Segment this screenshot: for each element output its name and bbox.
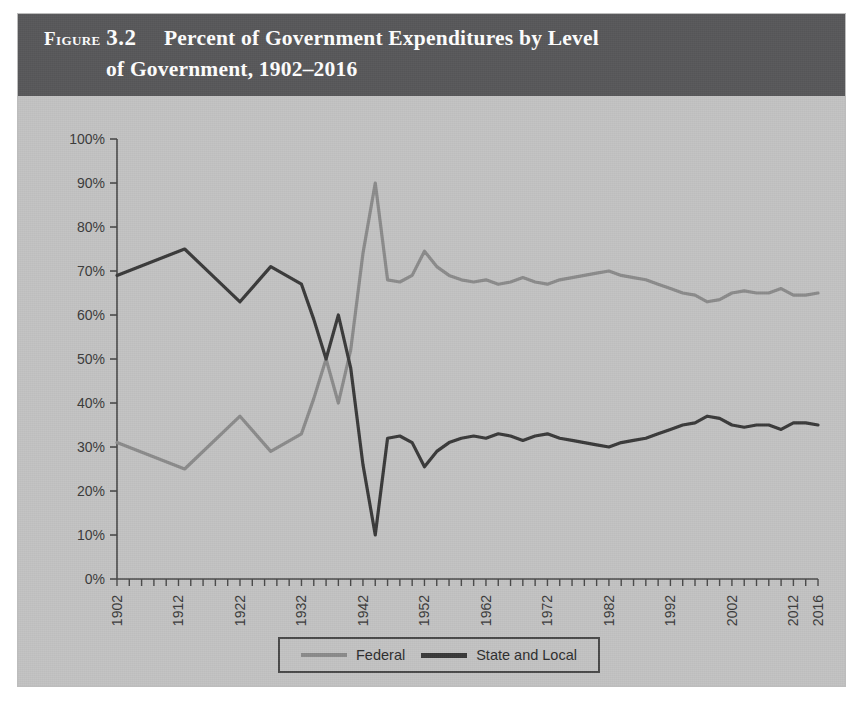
y-tick-label: 0%	[85, 571, 105, 587]
y-tick-label: 50%	[77, 351, 105, 367]
y-tick-label: 40%	[77, 395, 105, 411]
y-tick-label: 60%	[77, 307, 105, 323]
y-tick-label: 70%	[77, 263, 105, 279]
legend-swatch-federal-icon	[301, 653, 347, 657]
x-tick-label: 1952	[416, 595, 432, 626]
x-axis: 1902191219221932194219521962197219821992…	[109, 579, 826, 626]
figure-label: Figure	[44, 28, 101, 49]
legend-label-federal: Federal	[356, 647, 405, 663]
x-tick-label: 1942	[355, 595, 371, 626]
series-line-federal	[117, 183, 818, 469]
figure-page: Figure 3.2 Percent of Government Expendi…	[0, 0, 863, 704]
x-tick-label: 1972	[539, 595, 555, 626]
x-tick-label: 2002	[724, 595, 740, 626]
x-tick-label: 1902	[109, 595, 125, 626]
plot-area: 100%90%80%70%60%50%40%30%20%10%0% 190219…	[18, 96, 845, 686]
figure-number: 3.2	[106, 25, 136, 50]
figure-title-text-1: Percent of Government Expenditures by Le…	[164, 26, 599, 50]
figure-title-line-1: Figure 3.2 Percent of Government Expendi…	[44, 23, 823, 54]
y-tick-label: 80%	[77, 219, 105, 235]
x-tick-label: 2012	[785, 595, 801, 626]
y-tick-label: 100%	[69, 131, 105, 147]
x-tick-label: 1962	[478, 595, 494, 626]
data-series-group	[117, 183, 818, 535]
legend-entry-state-and-local[interactable]: State and Local	[421, 647, 577, 663]
x-tick-label: 1932	[293, 595, 309, 626]
legend-label-state-and-local: State and Local	[476, 647, 577, 663]
figure-card: Figure 3.2 Percent of Government Expendi…	[18, 14, 845, 686]
y-tick-label: 90%	[77, 175, 105, 191]
x-tick-label: 2016	[810, 595, 826, 626]
x-tick-label: 1912	[170, 595, 186, 626]
y-tick-label: 10%	[77, 527, 105, 543]
y-tick-label: 20%	[77, 483, 105, 499]
y-axis: 100%90%80%70%60%50%40%30%20%10%0%	[69, 131, 117, 587]
chart-legend: Federal State and Local	[278, 637, 600, 673]
y-tick-label: 30%	[77, 439, 105, 455]
legend-swatch-state-and-local-icon	[421, 653, 467, 658]
x-tick-label: 1922	[232, 595, 248, 626]
series-line-state-and-local	[117, 249, 818, 535]
x-tick-label: 1992	[662, 595, 678, 626]
figure-title-banner: Figure 3.2 Percent of Government Expendi…	[18, 14, 845, 96]
line-chart: 100%90%80%70%60%50%40%30%20%10%0% 190219…	[18, 96, 845, 686]
legend-entry-federal[interactable]: Federal	[301, 647, 405, 663]
x-tick-label: 1982	[601, 595, 617, 626]
figure-title-line-2: of Government, 1902–2016	[44, 54, 823, 84]
